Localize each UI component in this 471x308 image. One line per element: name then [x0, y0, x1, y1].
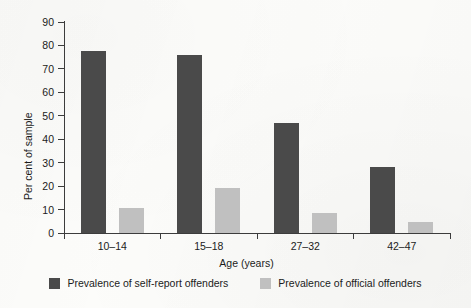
x-axis-category-label: 15–18	[169, 241, 249, 252]
x-axis-tick	[353, 234, 354, 239]
x-axis-tick	[64, 234, 65, 239]
y-axis-title: Per cent of sample	[11, 50, 25, 200]
x-axis-title: Age (years)	[0, 258, 471, 269]
chart-legend: Prevalence of self-report offendersPreva…	[0, 278, 471, 289]
y-axis-tick-label: 0	[48, 228, 54, 239]
bar-chart-figure: Per cent of sample 0102030405060708090 1…	[0, 0, 471, 308]
y-axis-tick-label: 10	[42, 204, 54, 215]
y-axis-tick-label: 60	[42, 87, 54, 98]
y-axis-tick-label: 30	[42, 157, 54, 168]
legend-item-label: Prevalence of self-report offenders	[67, 278, 228, 289]
bar	[119, 208, 144, 233]
x-axis-tick	[257, 234, 258, 239]
y-axis-tick-label: 80	[42, 40, 54, 51]
x-axis-tick	[450, 234, 451, 239]
bar	[370, 167, 395, 233]
bar	[408, 222, 433, 233]
x-axis-line	[64, 233, 451, 234]
y-axis-tick-label: 50	[42, 111, 54, 122]
legend-item: Prevalence of self-report offenders	[49, 278, 228, 289]
x-axis-title-text: Age (years)	[219, 258, 273, 269]
y-axis-tick-label: 90	[42, 17, 54, 28]
y-axis-tick-label: 40	[42, 134, 54, 145]
y-axis-tick-label: 20	[42, 181, 54, 192]
x-axis-tick	[160, 234, 161, 239]
y-axis-title-text: Per cent of sample	[23, 112, 34, 200]
legend-swatch-icon	[260, 278, 271, 289]
y-axis-tick-label: 70	[42, 64, 54, 75]
bar	[312, 213, 337, 233]
x-axis-category-label: 10–14	[72, 241, 152, 252]
bar	[215, 188, 240, 233]
legend-item-label: Prevalence of official offenders	[278, 278, 421, 289]
bar	[274, 123, 299, 233]
bar	[177, 55, 202, 233]
legend-swatch-icon	[49, 278, 60, 289]
x-axis-category-label: 27–32	[265, 241, 345, 252]
x-axis-category-label: 42–47	[362, 241, 442, 252]
legend-item: Prevalence of official offenders	[260, 278, 421, 289]
plot-area	[64, 22, 450, 233]
bar	[81, 51, 106, 233]
